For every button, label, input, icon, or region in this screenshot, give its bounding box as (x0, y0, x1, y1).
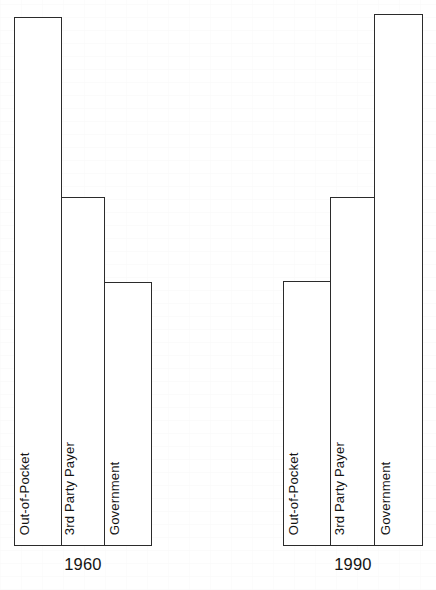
bar-group-1990: Out-of-Pocket 3rd Party Payer Government (0, 0, 436, 546)
bar-chart: Out-of-Pocket 3rd Party Payer Government… (0, 0, 436, 590)
bar-1990-out-of-pocket[interactable]: Out-of-Pocket (283, 281, 331, 546)
bar-1990-government[interactable]: Government (374, 14, 423, 546)
baseline-1990 (283, 545, 423, 546)
x-axis-label-1960: 1960 (14, 556, 152, 573)
x-axis-label-1990: 1990 (283, 556, 423, 573)
bar-1990-3rd-party-payer[interactable]: 3rd Party Payer (330, 197, 375, 546)
plot-area: Out-of-Pocket 3rd Party Payer Government… (0, 0, 436, 590)
